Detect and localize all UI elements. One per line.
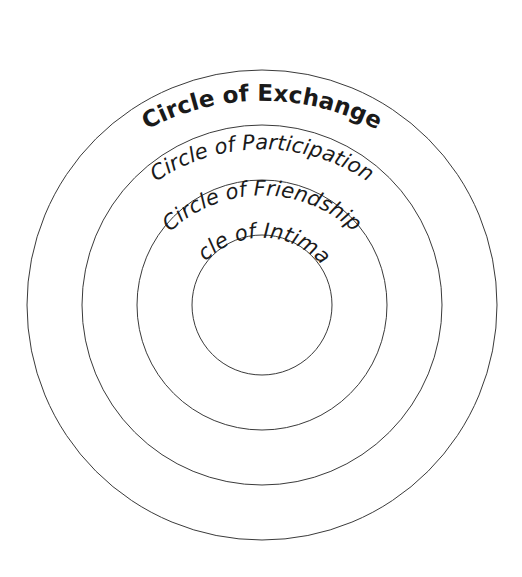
- concentric-circles-diagram: Circle of Exchange Circle of Participati…: [0, 0, 522, 577]
- label-exchange-text: Circle of Exchange: [137, 80, 386, 134]
- label-exchange: Circle of Exchange: [137, 80, 386, 134]
